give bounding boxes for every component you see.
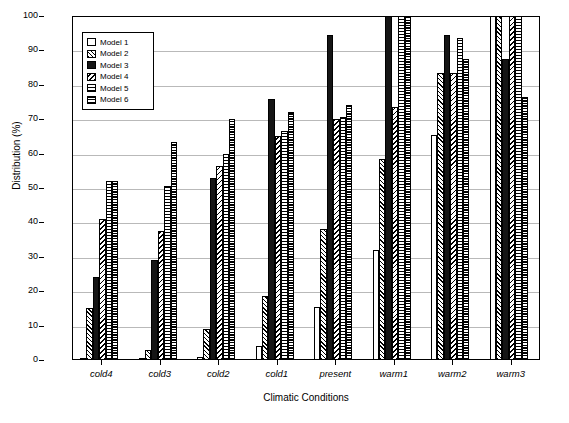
legend-swatch [87, 96, 96, 104]
x-tick-label: cold2 [188, 368, 248, 379]
x-tick-mark [335, 360, 336, 365]
y-tick-mark [39, 154, 44, 155]
x-tick-label: cold3 [130, 368, 190, 379]
x-tick-mark [394, 360, 395, 365]
legend-item: Model 5 [87, 83, 149, 94]
y-axis-title: Distribution (%) [11, 76, 22, 236]
y-tick-label: 0 [4, 355, 38, 364]
legend-swatch [87, 38, 96, 46]
legend-item: Model 6 [87, 94, 149, 105]
y-tick-label: 20 [4, 286, 38, 295]
x-tick-label: warm3 [481, 368, 541, 379]
bar [405, 16, 411, 360]
legend-swatch [87, 61, 96, 69]
x-tick-mark [277, 360, 278, 365]
x-tick-mark [160, 360, 161, 365]
y-tick-label: 10 [4, 321, 38, 330]
y-tick-mark [39, 360, 44, 361]
bar [346, 105, 352, 360]
legend-label: Model 4 [100, 72, 128, 81]
legend-label: Model 6 [100, 95, 128, 104]
bar [463, 59, 469, 360]
y-tick-label: 100 [4, 11, 38, 20]
bar [171, 142, 177, 360]
legend-swatch [87, 50, 96, 58]
legend-item: Model 3 [87, 60, 149, 71]
y-tick-mark [39, 188, 44, 189]
legend-swatch [87, 84, 96, 92]
y-tick-mark [39, 16, 44, 17]
y-tick-mark [39, 291, 44, 292]
x-tick-mark [452, 360, 453, 365]
bar [229, 119, 235, 360]
legend-item: Model 4 [87, 71, 149, 82]
x-axis-title: Climatic Conditions [72, 392, 540, 403]
x-tick-label: cold4 [71, 368, 131, 379]
bar [112, 181, 118, 360]
y-tick-label: 30 [4, 252, 38, 261]
legend-label: Model 2 [100, 49, 128, 58]
legend-swatch [87, 73, 96, 81]
bar-chart: 0102030405060708090100 Distribution (%) … [0, 0, 569, 423]
legend-label: Model 5 [100, 84, 128, 93]
y-tick-mark [39, 257, 44, 258]
x-tick-mark [218, 360, 219, 365]
x-tick-label: warm1 [364, 368, 424, 379]
legend-label: Model 1 [100, 38, 128, 47]
bar [288, 112, 294, 360]
legend-label: Model 3 [100, 61, 128, 70]
y-tick-mark [39, 119, 44, 120]
x-tick-label: warm2 [422, 368, 482, 379]
x-tick-label: cold1 [247, 368, 307, 379]
x-tick-mark [101, 360, 102, 365]
y-tick-mark [39, 326, 44, 327]
legend: Model 1Model 2Model 3Model 4Model 5Model… [82, 32, 154, 110]
x-tick-mark [511, 360, 512, 365]
legend-item: Model 2 [87, 48, 149, 59]
x-tick-label: present [305, 368, 365, 379]
y-tick-label: 90 [4, 45, 38, 54]
y-tick-mark [39, 85, 44, 86]
bar [522, 97, 528, 360]
y-tick-mark [39, 50, 44, 51]
legend-item: Model 1 [87, 37, 149, 48]
y-tick-mark [39, 222, 44, 223]
